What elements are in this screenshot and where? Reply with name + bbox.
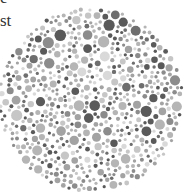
plate-dot bbox=[165, 102, 168, 105]
plate-dot bbox=[103, 127, 112, 136]
plate-dot bbox=[36, 97, 45, 106]
plate-dot bbox=[3, 114, 6, 117]
plate-dot bbox=[120, 59, 126, 65]
plate-dot bbox=[126, 93, 129, 96]
plate-dot bbox=[94, 96, 97, 99]
plate-dot bbox=[111, 42, 114, 45]
plate-dot bbox=[41, 173, 44, 176]
plate-dot bbox=[62, 13, 66, 17]
plate-dot bbox=[132, 19, 135, 22]
plate-dot bbox=[32, 156, 35, 159]
plate-dot bbox=[99, 123, 103, 127]
plate-dot bbox=[81, 179, 85, 183]
plate-dot bbox=[83, 44, 92, 53]
plate-dot bbox=[136, 117, 141, 122]
plate-dot bbox=[131, 164, 135, 168]
plate-dot bbox=[39, 57, 42, 60]
plate-dot bbox=[167, 132, 173, 138]
plate-dot bbox=[28, 101, 34, 107]
plate-dot bbox=[30, 77, 36, 83]
plate-dot bbox=[88, 169, 91, 172]
plate-dot bbox=[155, 120, 165, 130]
plate-dot bbox=[160, 94, 165, 99]
plate-dot bbox=[175, 68, 179, 72]
plate-dot bbox=[80, 43, 83, 46]
plate-dot bbox=[143, 31, 147, 35]
plate-dot bbox=[56, 126, 66, 136]
plate-dot bbox=[44, 34, 47, 37]
plate-dot bbox=[74, 78, 78, 82]
plate-dot bbox=[96, 115, 99, 118]
plate-dot bbox=[50, 181, 53, 184]
plate-dot bbox=[151, 42, 157, 48]
plate-dot bbox=[30, 55, 38, 63]
plate-dot bbox=[150, 85, 153, 88]
plate-dot bbox=[81, 143, 84, 146]
plate-dot bbox=[168, 56, 173, 61]
plate-dot bbox=[28, 146, 31, 149]
plate-dot bbox=[135, 53, 140, 58]
plate-dot bbox=[60, 121, 65, 126]
plate-dot bbox=[17, 85, 22, 90]
plate-dot bbox=[141, 70, 144, 73]
plate-dot bbox=[85, 106, 88, 109]
plate-dot bbox=[76, 83, 80, 87]
plate-dot bbox=[11, 122, 15, 126]
plate-dot bbox=[72, 169, 75, 172]
plate-dot bbox=[89, 53, 93, 57]
plate-dot bbox=[32, 136, 38, 142]
plate-dot bbox=[83, 109, 87, 113]
plate-dot bbox=[126, 165, 130, 169]
plate-dot bbox=[98, 129, 101, 132]
plate-dot bbox=[36, 72, 39, 75]
plate-dot bbox=[151, 90, 154, 93]
plate-dot bbox=[58, 163, 61, 166]
plate-dot bbox=[116, 129, 119, 132]
plate-dot bbox=[159, 131, 162, 134]
plate-dot bbox=[125, 46, 132, 53]
plate-dot bbox=[128, 103, 131, 106]
plate-dot bbox=[44, 154, 48, 158]
plate-dot bbox=[105, 152, 108, 155]
plate-dot bbox=[166, 98, 169, 101]
plate-dot bbox=[77, 188, 81, 192]
plate-dot bbox=[84, 85, 90, 91]
plate-dot bbox=[8, 108, 11, 111]
plate-dot bbox=[108, 33, 113, 38]
plate-dot bbox=[145, 58, 150, 63]
plate-dot bbox=[118, 71, 121, 74]
plate-dot bbox=[23, 42, 26, 45]
plate-dot bbox=[144, 64, 150, 70]
plate-dot bbox=[67, 92, 70, 95]
plate-dot bbox=[73, 96, 76, 99]
plate-dot bbox=[32, 49, 35, 52]
plate-dot bbox=[172, 101, 182, 111]
plate-dot bbox=[61, 183, 66, 188]
plate-dot bbox=[172, 90, 177, 95]
plate-dot bbox=[130, 129, 134, 133]
plate-dot bbox=[65, 111, 71, 117]
plate-dot bbox=[45, 147, 48, 150]
plate-dot bbox=[75, 172, 78, 175]
plate-dot bbox=[135, 128, 139, 132]
plate-dot bbox=[77, 176, 81, 180]
plate-dot bbox=[29, 70, 32, 73]
plate-dot bbox=[140, 158, 144, 162]
plate-dot bbox=[141, 173, 144, 176]
plate-dot bbox=[62, 85, 66, 89]
plate-dot bbox=[136, 65, 139, 68]
plate-dot bbox=[134, 124, 137, 127]
plate-dot bbox=[24, 95, 27, 98]
plate-dot bbox=[141, 106, 152, 117]
plate-dot bbox=[114, 88, 117, 91]
plate-dot bbox=[31, 143, 34, 146]
plate-dot bbox=[112, 173, 115, 176]
plate-dot bbox=[111, 11, 120, 20]
plate-dot bbox=[128, 24, 132, 28]
plate-dot bbox=[121, 154, 131, 164]
plate-dot bbox=[127, 33, 130, 36]
plate-dot bbox=[67, 132, 70, 135]
plate-dot bbox=[51, 27, 56, 32]
plate-dot bbox=[95, 67, 98, 70]
plate-dot bbox=[68, 145, 71, 148]
